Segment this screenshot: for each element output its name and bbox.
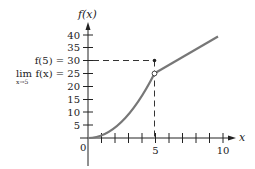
y-tick-label-40: 40 (67, 30, 80, 41)
x-tick-label-5: 5 (152, 145, 158, 156)
curve-linear (156, 37, 218, 73)
y-tick-label-5: 5 (74, 120, 80, 131)
filled-point-f5 (153, 59, 157, 63)
open-point-limit (152, 71, 157, 76)
y-tick-label-20: 20 (67, 81, 80, 92)
chart: f(x) x 40 35 f(5) = 30 lim f(x) = 25 x→5… (0, 0, 255, 169)
f5-label: f(5) = 30 (35, 55, 80, 66)
x-axis-label: x (239, 131, 246, 144)
limit-label-value: f(x) = 25 (35, 68, 80, 79)
origin-label: 0 (80, 142, 86, 153)
y-axis-label: f(x) (77, 8, 97, 21)
curve-quadratic (88, 74, 155, 139)
y-axis-arrow-icon (86, 22, 91, 30)
x-axis-arrow-icon (228, 136, 236, 141)
y-tick-label-10: 10 (67, 107, 80, 118)
y-tick-label-35: 35 (67, 42, 80, 53)
limit-label-subscript: x→5 (16, 78, 28, 85)
x-tick-label-10: 10 (217, 145, 230, 156)
y-tick-label-15: 15 (67, 94, 80, 105)
